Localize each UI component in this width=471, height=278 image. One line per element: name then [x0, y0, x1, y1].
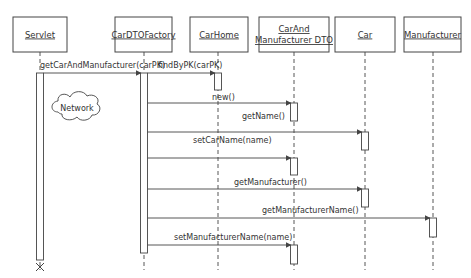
- object-label: CarHome: [199, 30, 239, 40]
- object-manufacturer: Manufacturer: [404, 17, 461, 52]
- message-7: setManufacturerName(name): [148, 233, 293, 245]
- object-label: Manufacturer DTO: [255, 35, 333, 45]
- object-factory: CarDTOFactory: [111, 17, 175, 52]
- activation-car: [362, 132, 369, 150]
- activation-dto: [291, 245, 298, 264]
- sequence-diagram: ServletCarDTOFactoryCarHomeCarAndManufac…: [0, 0, 471, 278]
- message-6: getManufacturerName(): [148, 206, 430, 218]
- object-label: Car: [358, 30, 373, 40]
- object-car: Car: [335, 17, 395, 52]
- message-4: setCarName(name): [148, 136, 291, 158]
- object-label: CarDTOFactory: [111, 30, 175, 40]
- message-label: setCarName(name): [193, 136, 272, 145]
- message-0: getCarAndManufacturer(carPK): [40, 61, 165, 73]
- object-boxes: ServletCarDTOFactoryCarHomeCarAndManufac…: [13, 17, 461, 52]
- message-label: new(): [212, 93, 235, 102]
- message-label: getManufacturerName(): [262, 206, 359, 215]
- object-servlet: Servlet: [13, 17, 67, 52]
- activation-servlet: [37, 73, 44, 260]
- activation-dto: [291, 158, 298, 175]
- message-5: getManufacturer(): [148, 178, 362, 189]
- activation-factory: [141, 73, 148, 253]
- message-label: findByPK(carPK): [158, 61, 222, 70]
- message-1: findByPK(carPK): [148, 61, 223, 73]
- activation-carhome: [215, 73, 222, 90]
- object-label: Manufacturer: [404, 30, 461, 40]
- message-label: setManufacturerName(name): [174, 233, 292, 242]
- activation-manufacturer: [430, 218, 437, 237]
- object-carhome: CarHome: [190, 17, 248, 52]
- network-cloud: Network: [52, 92, 100, 121]
- activation-dto: [291, 103, 298, 121]
- object-label: Servlet: [25, 30, 56, 40]
- object-label: CarAnd: [278, 24, 309, 34]
- object-dto: CarAndManufacturer DTO: [255, 17, 333, 52]
- message-label: getCarAndManufacturer(carPK): [40, 61, 165, 70]
- activation-car: [362, 189, 369, 207]
- message-2: new(): [148, 93, 291, 103]
- network-label: Network: [60, 104, 94, 113]
- message-label: getManufacturer(): [234, 178, 307, 187]
- messages: getCarAndManufacturer(carPK)findByPK(car…: [40, 61, 430, 245]
- message-label: getName(): [242, 112, 285, 121]
- message-3: getName(): [148, 112, 362, 132]
